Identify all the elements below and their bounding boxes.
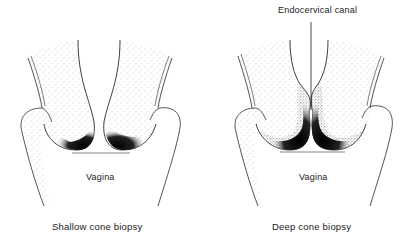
- shallow-cone-caption: Shallow cone biopsy: [52, 221, 142, 232]
- endocervical-canal-label: Endocervical canal: [278, 5, 357, 15]
- cone-biopsy-diagram: [0, 0, 403, 242]
- vagina-label-shallow: Vagina: [86, 172, 115, 182]
- deep-cone-caption: Deep cone biopsy: [272, 221, 351, 232]
- vagina-label-deep: Vagina: [299, 172, 328, 182]
